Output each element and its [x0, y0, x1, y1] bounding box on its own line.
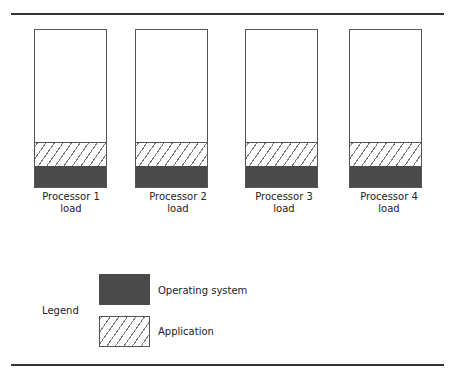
- bottom-rule: [11, 364, 444, 366]
- application-segment: [136, 142, 207, 166]
- legend-title: Legend: [42, 305, 79, 316]
- operating-system-segment: [136, 166, 207, 187]
- label-line1: Processor 3: [229, 191, 339, 203]
- processor-4-label: Processor 4 load: [334, 191, 444, 215]
- application-segment: [350, 142, 421, 166]
- top-rule: [11, 13, 444, 15]
- operating-system-segment: [350, 166, 421, 187]
- legend-swatch-operating-system: [99, 274, 150, 305]
- processor-3-label: Processor 3 load: [229, 191, 339, 215]
- label-line2: load: [229, 203, 339, 215]
- label-line1: Processor 4: [334, 191, 444, 203]
- processor-1-label: Processor 1 load: [16, 191, 126, 215]
- application-segment: [35, 142, 106, 166]
- processor-2-label: Processor 2 load: [123, 191, 233, 215]
- processor-1-bar: [34, 29, 107, 188]
- label-line2: load: [334, 203, 444, 215]
- operating-system-segment: [35, 166, 106, 187]
- label-line1: Processor 2: [123, 191, 233, 203]
- legend-label-operating-system: Operating system: [158, 285, 247, 296]
- label-line2: load: [16, 203, 126, 215]
- operating-system-segment: [246, 166, 317, 187]
- processor-3-bar: [245, 29, 318, 188]
- application-segment: [246, 142, 317, 166]
- processor-4-bar: [349, 29, 422, 188]
- legend-label-application: Application: [158, 326, 214, 337]
- label-line1: Processor 1: [16, 191, 126, 203]
- legend-swatch-application: [99, 316, 150, 347]
- processor-2-bar: [135, 29, 208, 188]
- label-line2: load: [123, 203, 233, 215]
